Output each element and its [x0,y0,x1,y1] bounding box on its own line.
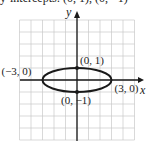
y-axis-label: y [65,5,72,19]
point-label: (0, −1) [61,94,91,107]
axes: x y [20,5,146,141]
ellipse-graph: x y (0, 1)(0, −1)(−3, 0)(3, 0) [0,0,149,141]
x-axis-label: x [139,83,146,97]
point-label: (3, 0) [115,82,139,95]
point-label: (−3, 0) [2,65,32,78]
point-marker [75,66,79,70]
point-label: (0, 1) [80,54,104,67]
y-axis-arrow-icon [74,11,80,18]
